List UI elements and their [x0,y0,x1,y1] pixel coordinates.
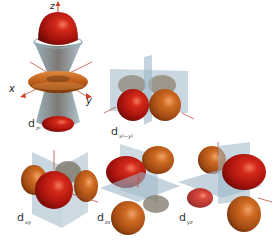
orbital-dxy: dxy [10,150,100,230]
orbital-label-dz2: dz² [28,118,41,129]
orbital-dz2: z x y dz² [0,0,110,140]
dyz-orbital-drawing [178,142,274,240]
orbital-label-dxy: dxy [17,212,31,223]
dz2-orbital-drawing [0,0,110,140]
orbital-dx2-y2: dx²−y² [100,55,220,140]
axis-label-y: y [86,96,92,106]
orbital-dzx: dzx [96,142,186,240]
axis-label-x: x [9,84,15,94]
axis-label-z: z [50,2,55,11]
orbital-label-dzx: dzx [97,212,111,223]
orbital-dyz: dyz [178,142,274,240]
orbital-label-dx2-y2: dx²−y² [111,126,133,137]
orbital-label-dyz: dyz [179,212,193,223]
dzx-orbital-drawing [96,142,186,240]
